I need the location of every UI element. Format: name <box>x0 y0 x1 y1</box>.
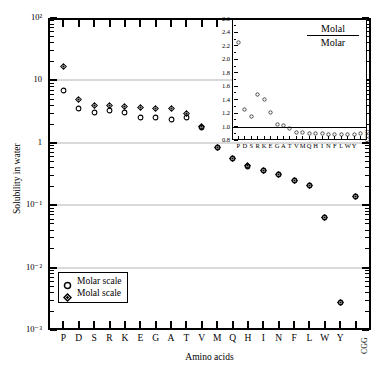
tick <box>50 223 54 224</box>
tick <box>234 119 237 120</box>
tick <box>365 248 369 249</box>
x-tick-label: M <box>210 333 224 343</box>
legend: Molar scaleMolal scale <box>58 272 128 303</box>
tick <box>365 214 369 215</box>
tick <box>93 20 95 27</box>
inset-data-point <box>242 98 247 103</box>
x-tick-label: S <box>87 333 101 343</box>
tick <box>360 136 361 140</box>
tick <box>50 42 54 43</box>
tick <box>289 136 290 140</box>
tick <box>124 321 126 328</box>
data-point-molar <box>152 114 159 121</box>
inset-data-point <box>313 122 318 127</box>
gridline <box>50 267 369 269</box>
inset-data-point <box>339 123 344 128</box>
inset-data-point <box>262 88 267 93</box>
data-point-molal <box>352 193 359 200</box>
tick <box>201 321 203 328</box>
data-point-molar <box>75 105 82 112</box>
ratio-numerator: Molal <box>307 23 359 34</box>
y-axis-title: Solubility in water <box>12 143 22 214</box>
tick <box>155 20 157 27</box>
x-tick-label: L <box>302 333 316 343</box>
data-point-molal <box>291 177 298 184</box>
x-tick-label: G <box>149 333 163 343</box>
tick <box>155 321 157 328</box>
tick <box>109 20 111 27</box>
tick <box>324 321 326 328</box>
tick <box>234 79 237 80</box>
x-tick-label: T <box>179 333 193 343</box>
tick <box>50 161 54 162</box>
tick <box>50 186 54 187</box>
tick <box>322 136 323 140</box>
inset-y-tick-label: 1.4 <box>206 96 230 103</box>
tick <box>355 321 357 328</box>
tick <box>50 86 54 87</box>
tick <box>365 223 369 224</box>
tick <box>50 219 54 220</box>
tick <box>50 17 57 19</box>
data-point-molar <box>91 109 98 116</box>
tick <box>50 113 54 114</box>
tick <box>365 161 369 162</box>
x-tick-label: E <box>133 333 147 343</box>
inset-data-point <box>307 122 312 127</box>
tick <box>234 59 238 60</box>
tick <box>234 140 238 141</box>
tick <box>365 292 369 293</box>
y-tick-label: 10² <box>0 12 42 22</box>
tick <box>362 142 369 144</box>
tick <box>50 286 54 287</box>
tick <box>365 230 369 231</box>
tick <box>315 136 316 140</box>
tick <box>50 27 54 28</box>
tick <box>50 142 57 144</box>
data-point-molal <box>229 155 236 162</box>
tick <box>50 36 54 37</box>
data-point-molar <box>60 87 67 94</box>
inset-data-point <box>236 31 241 36</box>
data-point-molal <box>244 162 251 169</box>
tick <box>308 321 310 328</box>
tick <box>234 113 238 114</box>
x-tick-label: P <box>56 333 70 343</box>
tick <box>50 83 54 84</box>
tick <box>234 19 238 20</box>
tick <box>283 136 284 140</box>
tick <box>50 230 54 231</box>
inset-data-point <box>287 117 292 122</box>
tick <box>170 20 172 27</box>
tick <box>264 136 265 140</box>
inset-data-point <box>249 105 254 110</box>
tick <box>50 105 54 106</box>
data-point-molar <box>168 116 175 123</box>
inset-y-tick-label: 2.2 <box>206 42 230 49</box>
tick <box>365 277 369 278</box>
ratio-denominator: Molar <box>307 37 359 48</box>
tick <box>50 292 54 293</box>
tick <box>50 124 54 125</box>
inset-y-tick-label: 2.0 <box>206 55 230 62</box>
tick <box>234 92 237 93</box>
tick <box>293 321 295 328</box>
tick <box>170 321 172 328</box>
tick <box>50 61 54 62</box>
tick <box>50 99 54 100</box>
data-point-molal <box>152 105 159 112</box>
tick <box>62 321 64 328</box>
inset-y-tick-label: 1.2 <box>206 109 230 116</box>
tick <box>365 211 369 212</box>
data-point-molal <box>214 144 221 151</box>
legend-label: Molar scale <box>77 276 122 286</box>
tick <box>365 270 369 271</box>
inset-data-point <box>294 121 299 126</box>
tick <box>50 20 54 21</box>
inset-data-point <box>281 114 286 119</box>
ratio-bar <box>307 35 359 36</box>
x-tick-label: N <box>272 333 286 343</box>
tick <box>50 237 54 238</box>
data-point-molal <box>137 104 144 111</box>
inset-data-point <box>300 121 305 126</box>
